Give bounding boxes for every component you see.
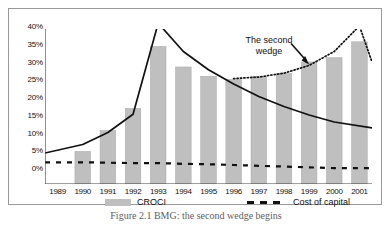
legend-bar-swatch-icon [105, 199, 131, 206]
chart-frame: 40% 35% 30% 25% 20% 15% 10% 5% 0% 1989 1… [8, 8, 382, 205]
annotation-line-2: wedge [223, 46, 315, 57]
y-tick-label: 40% [28, 23, 43, 31]
legend-item-cost-of-capital: Cost of capital [247, 195, 350, 209]
y-tick-label: 0% [32, 165, 43, 173]
annotation-second-wedge: The second wedge [223, 35, 315, 57]
y-tick-label: 35% [28, 41, 43, 49]
chart-canvas [45, 29, 372, 184]
y-tick-label: 5% [32, 147, 43, 155]
legend-item-croci: CROCI [105, 195, 166, 209]
y-tick-label: 30% [28, 59, 43, 67]
annotation-line-1: The second [223, 35, 315, 46]
legend-dashed-line-icon [247, 198, 287, 206]
chart-legend: CROCI Cost of capital [19, 195, 373, 211]
y-tick-label: 25% [28, 76, 43, 84]
bar-series-croci [75, 42, 367, 184]
plot-area [45, 29, 372, 184]
y-tick-label: 15% [28, 112, 43, 120]
legend-label: Cost of capital [293, 195, 350, 209]
y-tick-label: 20% [28, 94, 43, 102]
figure-root: 40% 35% 30% 25% 20% 15% 10% 5% 0% 1989 1… [0, 0, 392, 232]
figure-caption: Figure 2.1 BMG: the second wedge begins [0, 210, 392, 222]
y-axis-tick-labels: 40% 35% 30% 25% 20% 15% 10% 5% 0% [9, 23, 43, 193]
legend-label: CROCI [137, 195, 166, 209]
y-tick-label: 10% [28, 130, 43, 138]
